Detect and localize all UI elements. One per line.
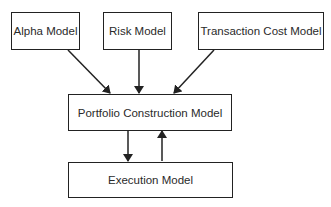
- alpha-model-label: Alpha Model: [14, 25, 78, 37]
- portfolio-construction-model-box: Portfolio Construction Model: [68, 94, 232, 131]
- alpha-model-box: Alpha Model: [11, 12, 80, 50]
- transaction-cost-model-box: Transaction Cost Model: [198, 12, 324, 50]
- execution-model-box: Execution Model: [68, 162, 233, 198]
- arrow-tcost-to-portfolio: [174, 50, 214, 93]
- portfolio-construction-model-label: Portfolio Construction Model: [78, 107, 222, 119]
- arrow-alpha-to-portfolio: [68, 50, 110, 93]
- risk-model-label: Risk Model: [109, 25, 166, 37]
- risk-model-box: Risk Model: [103, 12, 172, 50]
- transaction-cost-model-label: Transaction Cost Model: [200, 25, 321, 37]
- execution-model-label: Execution Model: [108, 174, 193, 186]
